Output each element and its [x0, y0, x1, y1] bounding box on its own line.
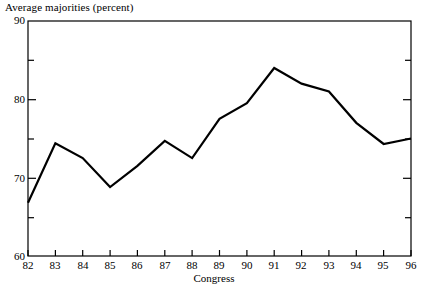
- plot-frame: [28, 21, 411, 256]
- chart-page: Average majorities (percent) 90 80 70 60…: [0, 0, 421, 288]
- data-series-line: [28, 68, 411, 203]
- chart-plot-area: [0, 0, 421, 288]
- x-axis-ticks: [28, 250, 411, 256]
